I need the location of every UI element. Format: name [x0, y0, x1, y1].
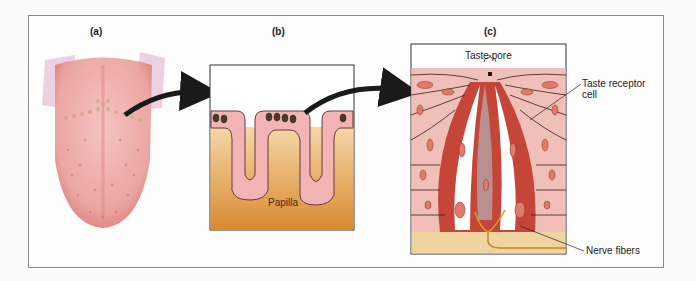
label-papilla: Papilla — [268, 197, 298, 208]
tongue-illustration — [42, 52, 165, 228]
label-nerve-fibers: Nerve fibers — [586, 245, 640, 256]
label-taste-receptor-line1: Taste receptor — [582, 78, 645, 89]
label-taste-pore: Taste pore — [465, 50, 512, 61]
label-taste-receptor-line2: cell — [582, 89, 597, 100]
diagram-illustration — [0, 0, 696, 281]
taste-bud-illustration — [411, 44, 566, 254]
